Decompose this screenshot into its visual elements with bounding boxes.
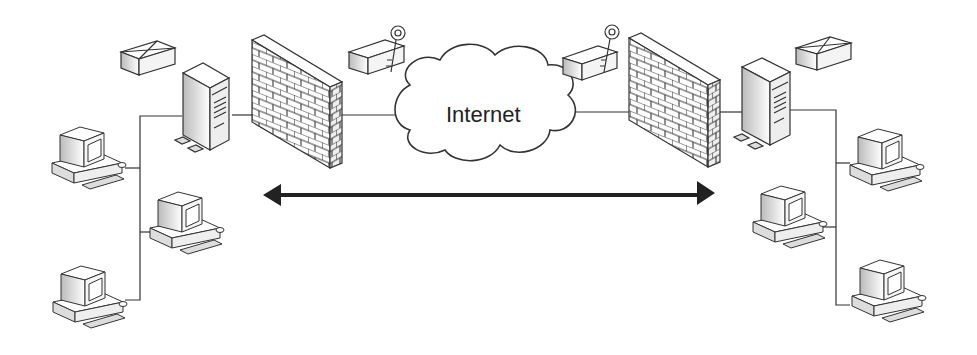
workstation-icon [53,266,127,328]
server-icon [734,58,790,149]
workstation-icon [52,127,126,189]
firewall-icon [252,35,342,168]
bidirectional-arrow [263,181,715,206]
encrypted-envelope-icon [349,26,405,74]
envelope-icon [121,41,175,75]
encrypted-envelope-icon [563,25,619,80]
workstation-icon [753,186,827,248]
internet-label: Internet [446,102,521,128]
server-icon [175,63,229,152]
workstation-icon [852,260,926,322]
workstation-icon [150,192,224,254]
envelope-icon [796,37,851,70]
network-diagram [0,0,977,355]
firewall-icon [629,33,720,167]
workstation-icon [850,129,924,191]
